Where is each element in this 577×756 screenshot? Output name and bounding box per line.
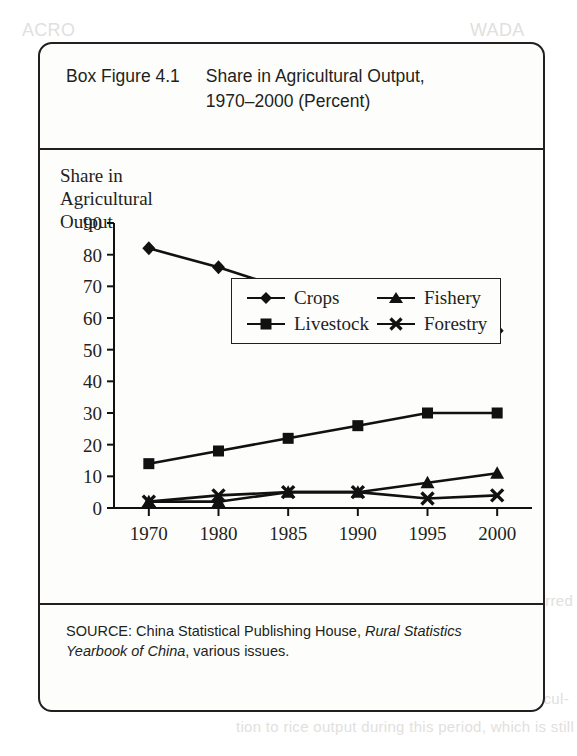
svg-text:1980: 1980 [200,523,238,544]
figure-title: Share in Agricultural Output, 1970–2000 … [206,64,425,134]
svg-text:2000: 2000 [478,523,516,544]
svg-text:10: 10 [83,466,102,487]
svg-text:0: 0 [93,498,103,519]
svg-text:50: 50 [83,340,102,361]
svg-text:1985: 1985 [269,523,307,544]
figure-header: Box Figure 4.1 Share in Agricultural Out… [40,44,543,150]
svg-text:80: 80 [83,245,102,266]
series-forestry [143,486,503,508]
figure-number: Box Figure 4.1 [66,64,180,134]
legend-item-forestry: Forestry [366,311,496,337]
figure-title-line-1: Share in Agricultural Output, [206,64,425,89]
legend-item-crops: Crops [236,285,366,311]
source-prefix: SOURCE: China Statistical Publishing Hou… [66,623,365,639]
figure-box: Box Figure 4.1 Share in Agricultural Out… [38,42,545,712]
series-fishery [142,466,504,507]
square-marker-icon [246,316,286,332]
source-italic-1: Rural Statistics [365,623,462,639]
line-chart-plot: 0102030405060708090197019801985199019952… [40,150,543,605]
legend-label-livestock: Livestock [294,313,369,335]
legend-label-fishery: Fishery [424,287,481,309]
bleed-text: ACRO [22,20,75,41]
svg-text:40: 40 [83,371,102,392]
svg-text:1970: 1970 [130,523,168,544]
chart-legend: Crops Fishery Livestock [231,278,501,344]
legend-row-1: Crops Fishery [236,285,496,311]
svg-text:90: 90 [83,213,102,234]
legend-row-2: Livestock Forestry [236,311,496,337]
x-marker-icon [376,316,416,332]
source-suffix: , various issues. [185,643,289,659]
svg-text:20: 20 [83,435,102,456]
bleed-text: tion to rice output during this period, … [236,718,574,735]
triangle-marker-icon [376,290,416,306]
bleed-text: WADA [470,20,525,41]
legend-item-fishery: Fishery [366,285,496,311]
source-note: SOURCE: China Statistical Publishing Hou… [40,605,543,661]
svg-text:70: 70 [83,276,102,297]
svg-text:1995: 1995 [409,523,447,544]
svg-text:60: 60 [83,308,102,329]
legend-item-livestock: Livestock [236,311,366,337]
figure-title-line-2: 1970–2000 (Percent) [206,89,425,114]
svg-text:1990: 1990 [339,523,377,544]
legend-label-crops: Crops [294,287,339,309]
svg-text:30: 30 [83,403,102,424]
series-livestock [143,408,502,470]
legend-label-forestry: Forestry [424,313,487,335]
diamond-marker-icon [246,290,286,306]
chart-area: Share in Agricultural Output 01020304050… [40,150,543,605]
source-italic-2: Yearbook of China [66,643,185,659]
